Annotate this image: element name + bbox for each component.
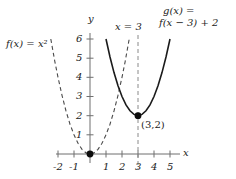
curve-g-annotation-line1: g(x) =	[163, 5, 194, 17]
graph-figure: y x 6 5 4 3 2 1 -2 -1 1 2 3 4 5 f(x) = x…	[0, 0, 236, 179]
curve-f-annotation: f(x) = x²	[6, 38, 48, 50]
x-tick-label-3: 3	[135, 161, 141, 173]
y-tick-label-6: 6	[76, 33, 82, 45]
vertex-point-annotation: (3,2)	[141, 119, 165, 131]
x-tick-label-5: 5	[167, 161, 173, 173]
x-tick-label-1: 1	[103, 161, 109, 173]
curve-g-annotation-line2: f(x − 3) + 2	[159, 17, 218, 29]
x-tick-label-4: 4	[151, 161, 157, 173]
y-tick-label-4: 4	[76, 71, 82, 83]
x-axis-label: x	[183, 147, 189, 159]
origin-point-marker	[87, 151, 94, 158]
y-tick-label-1: 1	[76, 129, 82, 141]
y-axis-label: y	[88, 13, 94, 25]
x-tick-label-2: 2	[119, 161, 125, 173]
vertical-line-annotation: x = 3	[115, 21, 142, 33]
y-tick-label-3: 3	[76, 90, 82, 102]
y-tick-label-2: 2	[76, 110, 82, 122]
x-tick-label-neg1: -1	[69, 161, 79, 173]
x-tick-label-neg2: -2	[53, 161, 63, 173]
y-tick-label-5: 5	[76, 52, 82, 64]
